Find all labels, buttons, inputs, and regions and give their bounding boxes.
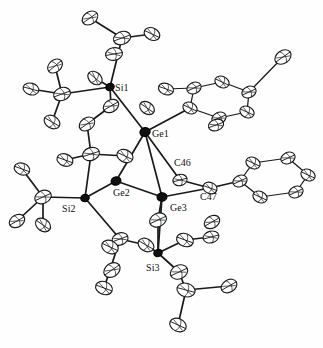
- atom-label-c47: C47: [200, 191, 217, 202]
- atom-label-ge2: Ge2: [113, 187, 130, 198]
- carbon-ellipsoid: [147, 210, 169, 229]
- ring-carbon-ellipsoid: [244, 155, 262, 171]
- carbon-ellipsoid: [172, 173, 189, 188]
- carbon-ellipsoid: [79, 8, 100, 28]
- carbon-ellipsoid: [81, 145, 101, 162]
- carbon-ellipsoid: [136, 235, 157, 254]
- carbon-ellipsoid: [175, 231, 196, 249]
- atom-label-ge1: Ge1: [152, 128, 169, 139]
- carbon-ellipsoid: [45, 56, 65, 76]
- ring-carbon-ellipsoid: [287, 184, 305, 200]
- substituent-ellipsoid: [157, 81, 175, 97]
- ring-carbon-ellipsoid: [185, 80, 203, 96]
- atom-label-ge3: Ge3: [170, 202, 187, 213]
- ring-carbon-ellipsoid: [181, 100, 199, 116]
- carbon-ellipsoid: [112, 29, 133, 47]
- bond: [145, 132, 180, 180]
- ortep-structure-figure: Si1Ge1C46Ge2Ge3C47Si2Si3: [0, 0, 323, 348]
- carbon-ellipsoid: [175, 281, 196, 299]
- carbon-ellipsoid: [101, 260, 123, 281]
- ring-carbon-ellipsoid: [238, 104, 256, 120]
- carbon-ellipsoid: [105, 46, 124, 61]
- atom-label-c46: C46: [174, 157, 191, 168]
- carbon-ellipsoid: [55, 152, 75, 169]
- carbon-ellipsoid: [115, 147, 135, 165]
- carbon-ellipsoid: [219, 276, 240, 295]
- ring-carbon-ellipsoid: [213, 74, 231, 90]
- atom-label-si3: Si3: [146, 262, 160, 273]
- bond: [110, 38, 122, 87]
- carbon-ellipsoid: [202, 229, 220, 244]
- carbon-ellipsoid: [168, 316, 189, 335]
- carbon-ellipsoid: [85, 68, 105, 87]
- carbon-ellipsoid: [94, 279, 115, 297]
- bond: [145, 132, 162, 197]
- bond: [85, 198, 120, 239]
- core-atom-ge2: [110, 176, 122, 187]
- carbon-ellipsoid: [12, 161, 31, 177]
- carbon-ellipsoid: [42, 112, 63, 131]
- atom-label-si1: Si1: [115, 82, 129, 93]
- carbon-ellipsoid: [52, 85, 73, 103]
- carbon-ellipsoid: [137, 99, 157, 118]
- carbon-ellipsoid: [33, 215, 53, 234]
- molecule-svg: Si1Ge1C46Ge2Ge3C47Si2Si3: [0, 0, 323, 348]
- carbon-ellipsoid: [22, 81, 40, 96]
- core-atom-ge1: [139, 126, 152, 138]
- carbon-ellipsoid: [202, 213, 222, 232]
- carbon-ellipsoid: [101, 97, 121, 116]
- carbon-ellipsoid: [77, 114, 98, 134]
- core-atom-ge3: [156, 192, 167, 202]
- atom-label-si2: Si2: [62, 203, 76, 214]
- carbon-ellipsoid: [142, 25, 162, 43]
- atom-ellipsoid-layer: [7, 8, 317, 334]
